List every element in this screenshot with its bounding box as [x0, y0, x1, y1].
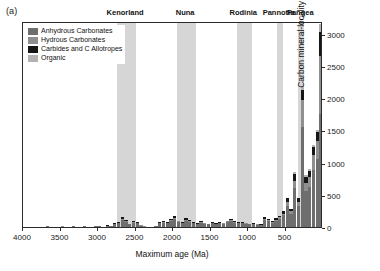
x-tick [135, 228, 136, 231]
y-tick [322, 228, 325, 229]
supercontinent-label-nuna: Nuna [176, 8, 195, 17]
x-tick-label: 3000 [88, 233, 106, 242]
x-tick [60, 228, 61, 231]
legend-item-hydrous: Hydrous Carbonates [28, 36, 122, 44]
x-tick [285, 228, 286, 231]
y-tick [322, 196, 325, 197]
legend-item-carbide: Carbides and C Allotropes [28, 45, 122, 53]
supercontinent-label-rodinia: Rodinia [230, 8, 258, 17]
chart-legend: Anhydrous CarbonatesHydrous CarbonatesCa… [26, 25, 125, 64]
legend-swatch-organic [28, 55, 38, 62]
x-tick-label: 3500 [51, 233, 69, 242]
y-axis-title: Carbon mineral-locality occurrences [296, 0, 306, 125]
x-axis-title: Maximum age (Ma) [22, 249, 322, 259]
y-tick [322, 164, 325, 165]
legend-label: Organic [41, 54, 66, 62]
legend-label: Hydrous Carbonates [41, 36, 105, 44]
y-tick [322, 131, 325, 132]
y-tick-label: 0 [327, 224, 331, 233]
x-tick [97, 228, 98, 231]
legend-swatch-carbide [28, 46, 38, 53]
x-tick-label: 2000 [163, 233, 181, 242]
legend-item-organic: Organic [28, 54, 122, 62]
bar-segment-hydrous [319, 56, 322, 114]
figure-panel-a: (a) KenorlandNunaRodiniaPannotiaPangea 4… [0, 0, 380, 271]
legend-swatch-anhydrous [28, 28, 38, 35]
x-tick [22, 228, 23, 231]
x-tick-label: 500 [278, 233, 291, 242]
x-tick [172, 228, 173, 231]
panel-label: (a) [6, 6, 17, 16]
x-tick [210, 228, 211, 231]
bar-segment-organic [319, 24, 322, 32]
y-tick [322, 67, 325, 68]
bar-segment-hydrous [293, 181, 296, 189]
y-tick-label: 3000 [327, 30, 345, 39]
x-tick [247, 228, 248, 231]
x-tick-label: 2500 [126, 233, 144, 242]
y-tick [322, 35, 325, 36]
y-tick-label: 1500 [327, 127, 345, 136]
legend-label: Anhydrous Carbonates [41, 27, 113, 35]
legend-swatch-hydrous [28, 37, 38, 44]
y-tick-label: 2500 [327, 63, 345, 72]
supercontinent-label-kenorland: Kenorland [107, 8, 144, 17]
y-tick-label: 1000 [327, 159, 345, 168]
y-tick [322, 99, 325, 100]
legend-label: Carbides and C Allotropes [41, 45, 122, 53]
x-tick-label: 1000 [238, 233, 256, 242]
y-tick-label: 500 [327, 191, 340, 200]
x-tick-label: 1500 [201, 233, 219, 242]
bar-segment-carbide [293, 174, 296, 181]
x-tick-label: 4000 [13, 233, 31, 242]
y-tick-label: 2000 [327, 95, 345, 104]
legend-item-anhydrous: Anhydrous Carbonates [28, 27, 122, 35]
